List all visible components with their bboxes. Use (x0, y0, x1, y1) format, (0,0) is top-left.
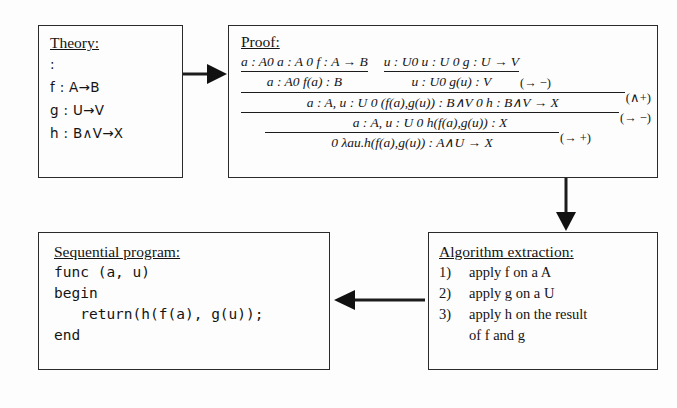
theory-line-3: h : B∧V→X (50, 122, 178, 145)
right-step-rule-label: (→ −) (520, 76, 551, 90)
proof-content: Proof: a : A0 a : A 0 f : A → B a : A0 f… (241, 32, 651, 151)
elim-step-conclusion: a : A, u : U 0 h(f(a),g(u)) : X (353, 114, 508, 131)
elim-step-bar (241, 112, 619, 113)
theory-line-1: f : A→B (50, 76, 178, 99)
elim-step-group: a : A, u : U 0 h(f(a),g(u)) : X (→ −) (241, 111, 651, 131)
algorithm-step-1-text: apply f on a A (469, 262, 551, 283)
and-introduction-step: a : A, u : U 0 (f(a),g(u)) : B∧V 0 h : B… (241, 91, 625, 111)
theory-box: Theory: : f : A→B g : U→V h : B∧V→X (38, 25, 183, 178)
program-title: Sequential program: (54, 241, 264, 262)
algorithm-step-2-text: apply g on a U (469, 283, 554, 304)
and-step-group: a : A, u : U 0 (f(a),g(u)) : B∧V 0 h : B… (241, 91, 651, 111)
algorithm-step-3-number: 3) (439, 304, 469, 325)
intro-step-group: 0 λau.h(f(a),g(u)) : A∧U → X (→ +) (241, 131, 651, 151)
right-step-premises: u : U0 u : U 0 g : U → V (384, 53, 519, 70)
right-step-bar (384, 71, 519, 72)
algorithm-step-2-number: 2) (439, 283, 469, 304)
arrow-theory-to-proof (183, 63, 229, 85)
intro-step-bar (265, 132, 559, 133)
and-step-bar (241, 92, 625, 93)
proof-title: Proof: (241, 32, 651, 51)
algorithm-step-3-continuation: of f and g (439, 325, 651, 346)
right-step-conclusion: u : U0 g(u) : V (411, 73, 491, 90)
algorithm-step-1: 1) apply f on a A (439, 262, 651, 283)
code-line-2: return(h(f(a), g(u)); (54, 304, 264, 325)
and-step-rule-label: (∧+) (626, 91, 651, 105)
elim-step-rule-label: (→ −) (620, 111, 651, 125)
intro-step-rule-label: (→ +) (560, 131, 591, 145)
inference-step-right: u : U0 u : U 0 g : U → V u : U0 g(u) : V (384, 53, 519, 90)
sequential-program-box: Sequential program: func (a, u) begin re… (38, 232, 330, 370)
arrow-introduction-step: 0 λau.h(f(a),g(u)) : A∧U → X (265, 131, 559, 151)
program-content: Sequential program: func (a, u) begin re… (54, 241, 264, 346)
algorithm-extraction-box: Algorithm extraction: 1) apply f on a A … (428, 232, 658, 370)
algorithm-title: Algorithm extraction: (439, 241, 651, 262)
proof-derivation-tree: a : A0 a : A 0 f : A → B a : A0 f(a) : B… (241, 53, 651, 151)
theory-content: Theory: : f : A→B g : U→V h : B∧V→X (50, 33, 178, 145)
algorithm-step-2: 2) apply g on a U (439, 283, 651, 304)
left-step-bar (241, 71, 368, 72)
intro-step-conclusion: 0 λau.h(f(a),g(u)) : A∧U → X (331, 134, 492, 151)
algorithm-step-3: 3) apply h on the result (439, 304, 651, 325)
algorithm-step-1-number: 1) (439, 262, 469, 283)
diagram-canvas: Theory: : f : A→B g : U→V h : B∧V→X Proo… (0, 0, 677, 408)
code-line-0: func (a, u) (54, 262, 264, 283)
code-line-3: end (54, 325, 264, 346)
arrow-algorithm-to-program (333, 288, 427, 312)
and-step-conclusion: a : A, u : U 0 (f(a),g(u)) : B∧V 0 h : B… (307, 94, 559, 111)
inference-step-left: a : A0 a : A 0 f : A → B a : A0 f(a) : B (241, 53, 368, 90)
arrow-elimination-step: a : A, u : U 0 h(f(a),g(u)) : X (241, 111, 619, 131)
arrow-proof-to-algorithm (555, 178, 577, 233)
theory-line-0: : (50, 53, 178, 76)
theory-line-2: g : U→V (50, 99, 178, 122)
inference-step-right-group: u : U0 u : U 0 g : U → V u : U0 g(u) : V… (384, 53, 551, 90)
derivation-row-top: a : A0 a : A 0 f : A → B a : A0 f(a) : B… (241, 53, 651, 90)
proof-box: Proof: a : A0 a : A 0 f : A → B a : A0 f… (228, 25, 658, 178)
theory-title: Theory: (50, 33, 178, 53)
code-line-1: begin (54, 283, 264, 304)
left-step-conclusion: a : A0 f(a) : B (267, 73, 342, 90)
algorithm-step-3-text: apply h on the result (469, 304, 587, 325)
algorithm-content: Algorithm extraction: 1) apply f on a A … (439, 241, 651, 346)
left-step-premises: a : A0 a : A 0 f : A → B (241, 53, 368, 70)
